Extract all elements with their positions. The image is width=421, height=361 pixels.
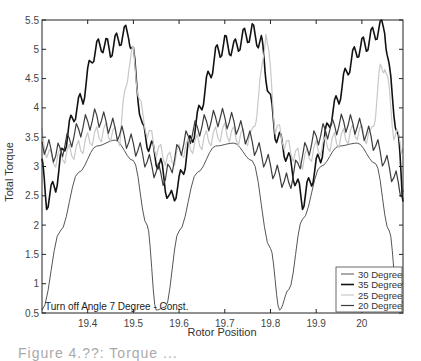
- x-tick-label: 19.8: [261, 318, 281, 329]
- annotation-text: Turn off Angle 7 Degree - Const.: [45, 301, 188, 312]
- y-tick-label: 1.5: [25, 249, 39, 260]
- x-tick-label: 19.5: [124, 318, 144, 329]
- legend-entry: 30 Degree: [358, 269, 402, 280]
- x-tick-label: 19.4: [78, 318, 98, 329]
- y-tick-label: 3: [33, 161, 39, 172]
- legend: 30 Degree35 Degree25 Degree20 Degree: [336, 267, 402, 312]
- x-tick-label: 20: [356, 318, 368, 329]
- legend-entry: 35 Degree: [358, 279, 402, 290]
- y-tick-label: 2: [33, 220, 39, 231]
- y-tick-label: 4: [33, 102, 39, 113]
- legend-entry: 25 Degree: [358, 290, 402, 301]
- y-tick-label: 1: [33, 278, 39, 289]
- x-tick-label: 19.9: [306, 318, 326, 329]
- figure-caption-fragment: Figure 4.??: Torque ...: [18, 345, 178, 361]
- y-tick-label: 0.5: [25, 308, 39, 319]
- y-tick-label: 5: [33, 44, 39, 55]
- legend-entry: 20 Degree: [358, 300, 402, 311]
- y-axis-label: Total Torque: [3, 142, 15, 202]
- x-tick-label: 19.6: [169, 318, 189, 329]
- y-tick-label: 3.5: [25, 132, 39, 143]
- y-tick-label: 2.5: [25, 190, 39, 201]
- y-tick-label: 5.5: [25, 15, 39, 26]
- y-tick-label: 4.5: [25, 73, 39, 84]
- x-axis-label: Rotor Position: [187, 326, 256, 338]
